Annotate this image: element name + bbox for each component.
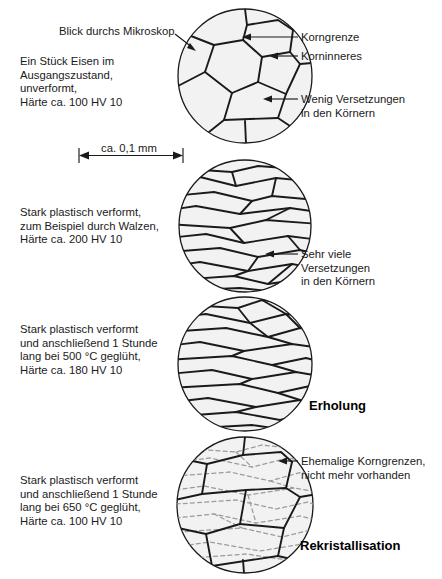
- arrowhead-former-boundaries: [278, 458, 287, 465]
- panel-4-leaders: [0, 0, 442, 579]
- figure-canvas: Ein Stück Eisen im Ausgangszustand, unve…: [0, 0, 442, 579]
- stage-label-recrystallisation: Rekristallisation: [300, 538, 400, 553]
